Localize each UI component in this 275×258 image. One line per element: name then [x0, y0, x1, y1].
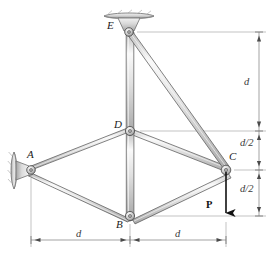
wall-support-bracket: [8, 152, 29, 189]
dimension-label-d-left: d: [76, 229, 81, 240]
dimension-label-d-half-upper: d/2: [240, 138, 253, 149]
member-B-C: [133, 174, 232, 224]
node-label-B: B: [116, 219, 123, 230]
horizontal-dimension-chain: [31, 236, 226, 244]
node-label-E: E: [107, 20, 114, 31]
truss-diagram-figure: E D A C B P d d/2 d/2 d d: [0, 0, 275, 258]
truss-drawing-canvas: [0, 0, 275, 258]
load-label-P: P: [206, 200, 212, 211]
dimension-label-d-right: d: [175, 229, 180, 240]
node-label-D: D: [114, 119, 122, 130]
node-label-A: A: [27, 149, 34, 160]
member-D-A: [28, 128, 132, 169]
member-D-B: [126, 131, 134, 216]
dimension-label-d-top: d: [244, 77, 249, 88]
member-E-D: [126, 32, 134, 131]
joint-B: [125, 211, 134, 220]
joint-A: [27, 166, 36, 175]
dimension-label-d-half-lower: d/2: [240, 184, 253, 195]
joint-E: [125, 28, 134, 37]
member-A-B: [28, 174, 132, 222]
vertical-dimension-chain: [255, 32, 263, 216]
joint-D: [125, 126, 134, 135]
node-label-C: C: [229, 151, 236, 162]
